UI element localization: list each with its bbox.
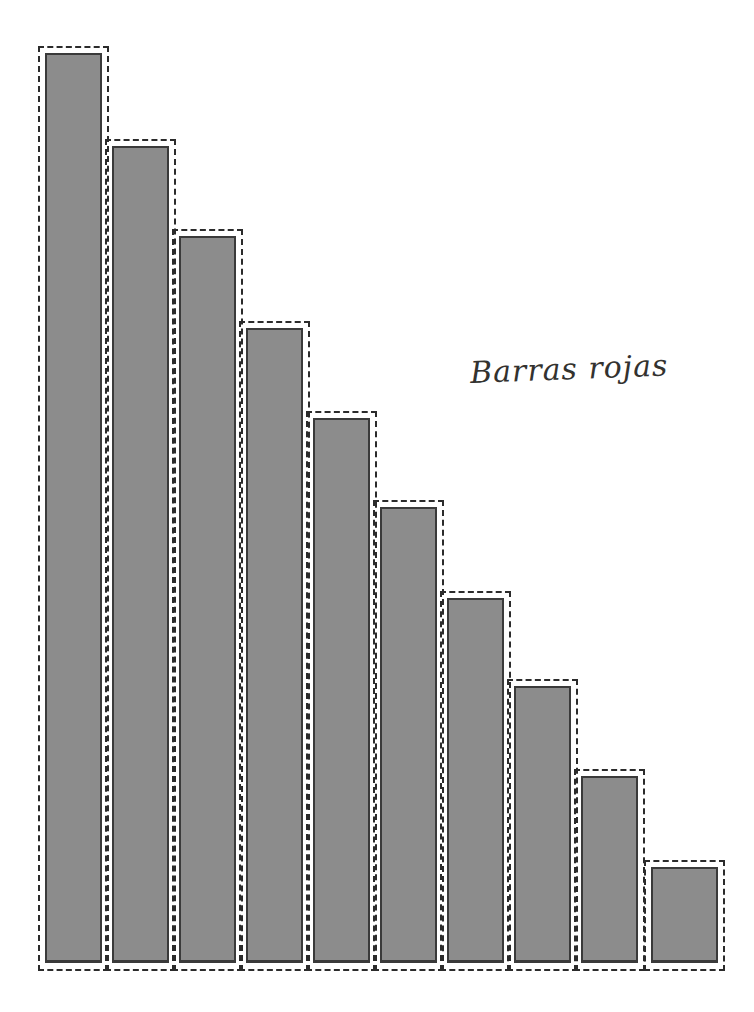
chart-canvas: Barras rojas xyxy=(0,0,754,1012)
bar-group-5[interactable] xyxy=(306,411,377,971)
bar-rect-10[interactable] xyxy=(651,867,718,963)
bar-group-3[interactable] xyxy=(172,229,243,971)
bar-rect-9[interactable] xyxy=(581,776,638,963)
bar-rect-1[interactable] xyxy=(45,53,102,963)
bar-group-1[interactable] xyxy=(38,46,109,971)
bar-rect-4[interactable] xyxy=(246,328,303,963)
bar-group-9[interactable] xyxy=(574,769,645,971)
bar-group-10[interactable] xyxy=(644,860,725,971)
bar-chart xyxy=(0,0,754,1012)
bar-rect-8[interactable] xyxy=(514,686,571,963)
bar-rect-3[interactable] xyxy=(179,236,236,963)
bar-rect-2[interactable] xyxy=(112,146,169,963)
bar-rect-5[interactable] xyxy=(313,418,370,963)
bar-group-8[interactable] xyxy=(507,679,578,971)
bar-group-2[interactable] xyxy=(105,139,176,971)
bar-rect-6[interactable] xyxy=(380,507,437,963)
bar-group-4[interactable] xyxy=(239,321,310,971)
bar-rect-7[interactable] xyxy=(447,598,504,963)
bar-group-7[interactable] xyxy=(440,591,511,971)
bar-group-6[interactable] xyxy=(373,500,444,971)
